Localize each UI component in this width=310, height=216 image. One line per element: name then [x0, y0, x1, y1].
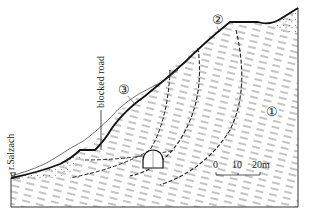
diagram-svg — [0, 0, 310, 216]
scale-tick-10: 10 — [232, 160, 242, 170]
road-label: blocked road — [96, 56, 106, 108]
water-level-symbol: ∇ — [10, 172, 16, 181]
marker-3: ③ — [117, 83, 131, 97]
marker-1: ① — [265, 105, 279, 119]
marker-2: ② — [211, 13, 225, 27]
scale-tick-20m: 20m — [252, 160, 270, 170]
river-label: r.Salzach — [6, 134, 16, 170]
cross-section-diagram: r.Salzach blocked road ∇ ① ② ③ 0 10 20m — [0, 0, 310, 216]
scale-tick-0: 0 — [213, 160, 218, 170]
